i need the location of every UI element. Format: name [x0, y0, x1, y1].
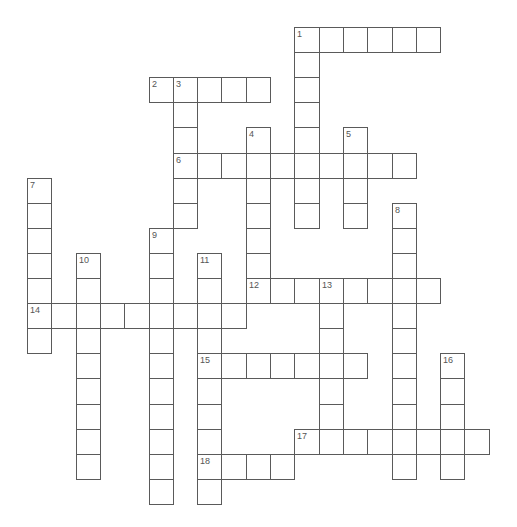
crossword-cell[interactable] [294, 178, 320, 204]
crossword-cell[interactable]: 2 [149, 77, 174, 103]
crossword-cell[interactable] [173, 203, 198, 229]
crossword-cell[interactable]: 15 [197, 353, 222, 379]
crossword-cell[interactable] [367, 429, 393, 455]
crossword-cell[interactable] [76, 378, 101, 405]
crossword-cell[interactable] [221, 153, 247, 179]
crossword-cell[interactable] [440, 429, 465, 455]
crossword-cell[interactable] [392, 253, 417, 279]
crossword-cell[interactable] [197, 77, 222, 103]
crossword-cell[interactable] [197, 479, 222, 505]
crossword-cell[interactable] [173, 127, 198, 154]
crossword-cell[interactable] [149, 454, 174, 480]
crossword-cell[interactable] [221, 353, 247, 379]
crossword-cell[interactable] [343, 278, 368, 304]
crossword-cell[interactable] [294, 153, 320, 179]
crossword-cell[interactable] [197, 429, 222, 455]
crossword-cell[interactable] [149, 303, 174, 329]
crossword-cell[interactable] [392, 153, 417, 179]
crossword-cell[interactable] [76, 353, 101, 379]
crossword-cell[interactable]: 5 [343, 127, 368, 154]
crossword-cell[interactable] [464, 429, 490, 455]
crossword-cell[interactable]: 12 [246, 278, 271, 304]
crossword-cell[interactable] [343, 27, 368, 53]
crossword-cell[interactable] [197, 153, 222, 179]
crossword-cell[interactable] [76, 429, 101, 455]
crossword-cell[interactable] [149, 353, 174, 379]
crossword-cell[interactable] [392, 303, 417, 329]
crossword-cell[interactable]: 3 [173, 77, 198, 103]
crossword-cell[interactable] [343, 178, 368, 204]
crossword-cell[interactable] [27, 228, 52, 254]
crossword-cell[interactable] [173, 102, 198, 128]
crossword-cell[interactable] [392, 228, 417, 254]
crossword-cell[interactable] [197, 303, 222, 329]
crossword-cell[interactable] [149, 429, 174, 455]
crossword-cell[interactable] [343, 429, 368, 455]
crossword-cell[interactable] [51, 303, 77, 329]
crossword-cell[interactable]: 13 [319, 278, 344, 304]
crossword-cell[interactable] [294, 52, 320, 78]
crossword-cell[interactable] [149, 253, 174, 279]
crossword-cell[interactable] [246, 353, 271, 379]
crossword-cell[interactable] [197, 328, 222, 354]
crossword-cell[interactable] [76, 454, 101, 480]
crossword-cell[interactable] [392, 429, 417, 455]
crossword-cell[interactable] [343, 203, 368, 229]
crossword-cell[interactable] [367, 27, 393, 53]
crossword-cell[interactable] [343, 353, 368, 379]
crossword-cell[interactable] [149, 278, 174, 304]
crossword-cell[interactable] [392, 328, 417, 354]
crossword-cell[interactable] [76, 278, 101, 304]
crossword-cell[interactable] [173, 178, 198, 204]
crossword-cell[interactable] [246, 454, 271, 480]
crossword-cell[interactable] [100, 303, 125, 329]
crossword-cell[interactable] [246, 253, 271, 279]
crossword-cell[interactable]: 8 [392, 203, 417, 229]
crossword-cell[interactable]: 11 [197, 253, 222, 279]
crossword-cell[interactable] [76, 303, 101, 329]
crossword-cell[interactable] [149, 378, 174, 405]
crossword-cell[interactable] [149, 328, 174, 354]
crossword-cell[interactable] [197, 378, 222, 405]
crossword-cell[interactable]: 9 [149, 228, 174, 254]
crossword-cell[interactable] [294, 278, 320, 304]
crossword-cell[interactable] [221, 454, 247, 480]
crossword-cell[interactable] [294, 353, 320, 379]
crossword-cell[interactable] [416, 27, 441, 53]
crossword-cell[interactable] [367, 278, 393, 304]
crossword-cell[interactable] [440, 454, 465, 480]
crossword-cell[interactable] [221, 77, 247, 103]
crossword-cell[interactable]: 4 [246, 127, 271, 154]
crossword-cell[interactable] [392, 27, 417, 53]
crossword-cell[interactable] [221, 303, 247, 329]
crossword-cell[interactable] [76, 328, 101, 354]
crossword-cell[interactable] [367, 153, 393, 179]
crossword-cell[interactable]: 17 [294, 429, 320, 455]
crossword-cell[interactable] [294, 102, 320, 128]
crossword-cell[interactable] [416, 278, 441, 304]
crossword-cell[interactable] [27, 253, 52, 279]
crossword-cell[interactable]: 1 [294, 27, 320, 53]
crossword-cell[interactable] [270, 454, 295, 480]
crossword-cell[interactable] [246, 178, 271, 204]
crossword-cell[interactable] [319, 153, 344, 179]
crossword-cell[interactable] [270, 353, 295, 379]
crossword-cell[interactable] [270, 278, 295, 304]
crossword-cell[interactable] [294, 203, 320, 229]
crossword-cell[interactable] [246, 203, 271, 229]
crossword-cell[interactable]: 6 [173, 153, 198, 179]
crossword-cell[interactable] [173, 303, 198, 329]
crossword-cell[interactable] [124, 303, 150, 329]
crossword-cell[interactable] [76, 404, 101, 430]
crossword-cell[interactable] [319, 328, 344, 354]
crossword-cell[interactable] [440, 404, 465, 430]
crossword-cell[interactable]: 7 [27, 178, 52, 204]
crossword-cell[interactable] [197, 404, 222, 430]
crossword-cell[interactable] [27, 203, 52, 229]
crossword-cell[interactable] [197, 278, 222, 304]
crossword-cell[interactable] [392, 278, 417, 304]
crossword-cell[interactable]: 18 [197, 454, 222, 480]
crossword-cell[interactable]: 10 [76, 253, 101, 279]
crossword-cell[interactable] [294, 127, 320, 154]
crossword-cell[interactable] [149, 479, 174, 505]
